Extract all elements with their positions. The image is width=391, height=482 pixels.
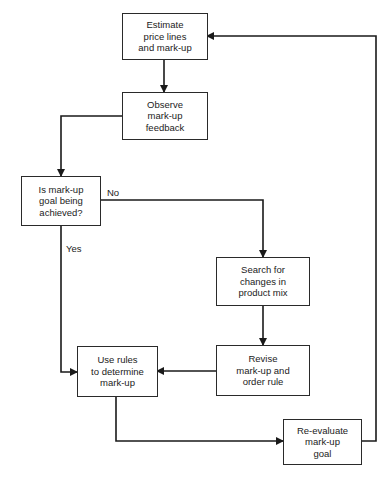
- node-text-line: order rule: [243, 376, 284, 388]
- edge-use-rules-to-reevaluate: [116, 396, 283, 441]
- node-text-line: Estimate: [147, 19, 184, 31]
- node-text-line: mark-up: [305, 436, 340, 448]
- node-text-line: goal: [314, 448, 332, 460]
- edge-label-yes: Yes: [66, 243, 82, 254]
- node-use-rules: Use rules to determine mark-up: [77, 346, 158, 397]
- node-text-line: Is mark-up: [39, 184, 84, 196]
- node-observe-feedback: Observe mark-up feedback: [122, 92, 208, 140]
- node-text-line: Search for: [241, 264, 285, 276]
- node-text-line: Re-evaluate: [297, 425, 348, 437]
- edge-decision-to-search: [100, 200, 263, 257]
- node-text-line: mark-up and: [236, 365, 289, 377]
- node-reevaluate-goal: Re-evaluate mark-up goal: [283, 419, 362, 465]
- flowchart-connectors: [0, 0, 391, 482]
- edge-label-no: No: [107, 187, 119, 198]
- node-text-line: mark-up: [100, 377, 135, 389]
- node-text-line: achieved?: [39, 207, 82, 219]
- node-text-line: goal being: [39, 195, 83, 207]
- node-text-line: to determine: [91, 366, 144, 378]
- node-decision-goal-achieved: Is mark-up goal being achieved?: [21, 176, 101, 226]
- node-text-line: Use rules: [97, 354, 137, 366]
- node-text-line: Revise: [248, 353, 277, 365]
- edge-observe-to-decision: [61, 116, 122, 176]
- node-text-line: product mix: [238, 287, 287, 299]
- node-revise-markup-rule: Revise mark-up and order rule: [216, 345, 310, 396]
- node-estimate-price-lines: Estimate price lines and mark-up: [122, 13, 208, 60]
- node-search-product-mix: Search for changes in product mix: [216, 257, 310, 306]
- node-text-line: mark-up: [148, 110, 183, 122]
- node-text-line: Observe: [147, 99, 183, 111]
- node-text-line: price lines: [144, 31, 187, 43]
- node-text-line: changes in: [240, 276, 286, 288]
- node-text-line: and mark-up: [138, 42, 191, 54]
- node-text-line: feedback: [146, 122, 185, 134]
